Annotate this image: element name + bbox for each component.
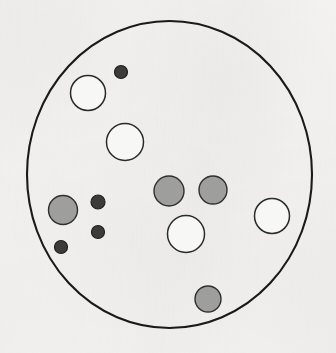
inclusion-gray-1 bbox=[154, 176, 184, 206]
inclusion-dark-4 bbox=[55, 241, 68, 254]
inclusion-open-3 bbox=[168, 216, 205, 253]
inclusion-gray-3 bbox=[49, 196, 78, 225]
inclusion-gray-2 bbox=[199, 176, 227, 204]
inclusion-open-4 bbox=[255, 199, 290, 234]
inclusion-layer bbox=[49, 66, 290, 313]
series-open-circles bbox=[71, 76, 290, 253]
inclusion-open-1 bbox=[71, 76, 106, 111]
inclusion-dark-1 bbox=[115, 66, 128, 79]
figure-container bbox=[0, 0, 336, 353]
inclusion-gray-4 bbox=[195, 286, 221, 312]
inclusion-dark-3 bbox=[92, 226, 105, 239]
boundary-layer bbox=[27, 21, 312, 328]
outer-circle-boundary bbox=[27, 21, 312, 328]
diagram-canvas bbox=[0, 0, 336, 353]
inclusion-dark-2 bbox=[91, 195, 105, 209]
inclusion-open-2 bbox=[107, 124, 144, 161]
